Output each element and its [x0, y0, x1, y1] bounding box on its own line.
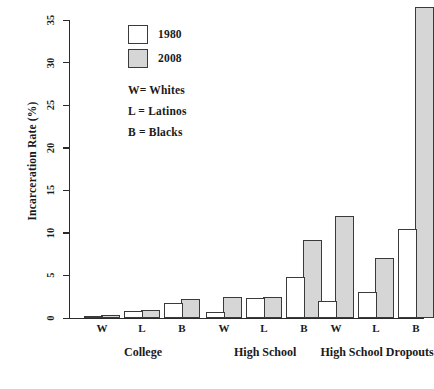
- y-tick-label: 20: [40, 142, 62, 154]
- y-tick-mark: [63, 105, 70, 106]
- legend-note-latinos: L = Latinos: [128, 105, 248, 117]
- bar-2008: [101, 315, 120, 318]
- bar-1980: [398, 229, 417, 318]
- bar-1980: [246, 298, 265, 318]
- y-tick-label: 10: [40, 227, 62, 239]
- y-tick-label-text: 25: [45, 94, 57, 116]
- y-tick-label-text: 35: [45, 9, 57, 31]
- bar-1980: [206, 312, 225, 318]
- bar-1980: [164, 303, 183, 318]
- legend-note-blacks: B = Blacks: [128, 126, 248, 138]
- bar-2008: [181, 299, 200, 318]
- y-tick-label: 5: [40, 269, 62, 281]
- y-tick-label-text: 0: [45, 307, 57, 329]
- y-tick-mark: [63, 232, 70, 233]
- bar-1980: [358, 292, 377, 318]
- x-category-label: B: [167, 322, 197, 334]
- x-category-label: L: [127, 322, 157, 334]
- y-tick-label-text: 20: [45, 137, 57, 159]
- x-category-label: W: [209, 322, 239, 334]
- y-tick-mark: [63, 275, 70, 276]
- y-tick-label: 25: [40, 99, 62, 111]
- y-tick-label-text: 15: [45, 179, 57, 201]
- x-group-label: College: [124, 345, 162, 360]
- y-axis-title: Incarceration Rate (%): [26, 51, 38, 271]
- y-tick-label-text: 5: [45, 264, 57, 286]
- y-tick-label: 30: [40, 57, 62, 69]
- bar-2008: [263, 297, 282, 318]
- x-category-label: L: [361, 322, 391, 334]
- bar-2008: [375, 258, 394, 318]
- y-tick-mark: [63, 318, 70, 319]
- y-tick-label-text: 30: [45, 52, 57, 74]
- bar-2008: [141, 310, 160, 319]
- bar-1980: [124, 311, 143, 318]
- y-tick-label: 0: [40, 312, 62, 324]
- bar-2008: [335, 216, 354, 318]
- legend-label-1980: 1980: [158, 28, 182, 40]
- x-group-label: High School Dropouts: [321, 345, 434, 360]
- legend-note-whites: W= Whites: [128, 84, 248, 96]
- bar-2008: [223, 297, 242, 318]
- y-tick-label: 15: [40, 184, 62, 196]
- bar-1980: [318, 301, 337, 318]
- legend-entry-2008: 2008: [128, 46, 248, 70]
- y-tick-label: 35: [40, 14, 62, 26]
- x-category-label: B: [401, 322, 431, 334]
- y-tick-mark: [63, 62, 70, 63]
- legend-swatch-2008-icon: [128, 49, 148, 68]
- legend-entry-1980: 1980: [128, 22, 248, 46]
- y-tick-mark: [63, 147, 70, 148]
- y-tick-label-text: 10: [45, 222, 57, 244]
- y-tick-mark: [63, 190, 70, 191]
- x-category-label: W: [87, 322, 117, 334]
- chart-legend: 1980 2008 W= Whites L = Latinos B = Blac…: [128, 22, 248, 138]
- x-category-label: L: [249, 322, 279, 334]
- bar-1980: [286, 277, 305, 318]
- y-tick-mark: [63, 20, 70, 21]
- bar-1980: [84, 316, 103, 318]
- x-category-label: B: [289, 322, 319, 334]
- x-category-label: W: [321, 322, 351, 334]
- legend-label-2008: 2008: [158, 52, 182, 64]
- x-axis-line: [69, 318, 424, 319]
- x-group-label: High School: [234, 345, 296, 360]
- legend-swatch-1980-icon: [128, 25, 148, 44]
- bar-2008: [415, 7, 434, 318]
